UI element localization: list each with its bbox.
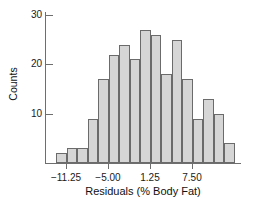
histogram-bar <box>88 119 99 163</box>
plot-area: 102030 −11.25−5.001.257.50 Counts Residu… <box>0 0 255 204</box>
x-axis-title: Residuals (% Body Fat) <box>45 185 241 197</box>
histogram-bar <box>203 99 214 163</box>
histogram-bar <box>56 153 67 163</box>
histogram-bar <box>161 74 172 163</box>
histogram-bar <box>119 45 130 163</box>
histogram-bar <box>151 35 162 163</box>
histogram-figure: 102030 −11.25−5.001.257.50 Counts Residu… <box>0 0 255 204</box>
x-axis-tick <box>150 164 151 169</box>
y-axis-tick-label: 10 <box>20 109 42 119</box>
y-axis-tick <box>46 64 53 65</box>
histogram-bar <box>182 79 193 163</box>
y-axis-tick <box>46 114 53 115</box>
histogram-bar <box>193 119 204 163</box>
histogram-bar <box>67 148 78 163</box>
y-axis-tick-label: 20 <box>20 59 42 69</box>
histogram-bar <box>172 40 183 163</box>
histogram-bar <box>140 30 151 163</box>
x-axis-tick <box>66 164 67 169</box>
y-axis-tick-label: 30 <box>20 10 42 20</box>
histogram-bar <box>109 55 120 163</box>
histogram-bar <box>214 114 225 163</box>
histogram-bar <box>224 143 235 163</box>
y-axis-title: Counts <box>7 49 19 119</box>
y-axis-line <box>45 12 46 164</box>
histogram-bar <box>77 148 88 163</box>
histogram-bar <box>98 79 109 163</box>
x-axis-tick-label: 7.50 <box>162 172 222 183</box>
y-axis-tick <box>46 15 53 16</box>
histogram-bar <box>130 59 141 163</box>
x-axis-line <box>45 163 241 164</box>
x-axis-tick <box>108 164 109 169</box>
x-axis-tick <box>192 164 193 169</box>
